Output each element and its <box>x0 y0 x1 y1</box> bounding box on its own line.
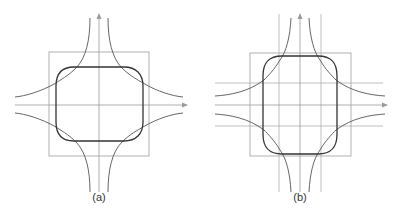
y-axis-arrow-icon <box>97 13 102 19</box>
diagram-b <box>200 0 400 219</box>
hyperbola-top-left <box>15 18 90 97</box>
guide-lines <box>215 14 383 192</box>
x-axis-arrow-icon <box>182 103 188 108</box>
x-axis-arrow-icon <box>382 103 388 108</box>
panel-b: (b) <box>200 0 400 219</box>
panel-a: (a) <box>0 0 200 219</box>
hyperbola-top-right <box>309 18 385 96</box>
hyperbola-bottom-right <box>108 113 183 192</box>
caption-b: (b) <box>280 191 320 203</box>
hyperbola-top-right <box>108 18 183 97</box>
y-axis-arrow-icon <box>298 13 303 19</box>
diagram-a <box>0 0 200 219</box>
closed-curve <box>56 67 143 141</box>
hyperbola-bottom-left <box>15 113 90 192</box>
hyperbola-top-left <box>215 18 291 96</box>
caption-a: (a) <box>79 191 119 203</box>
